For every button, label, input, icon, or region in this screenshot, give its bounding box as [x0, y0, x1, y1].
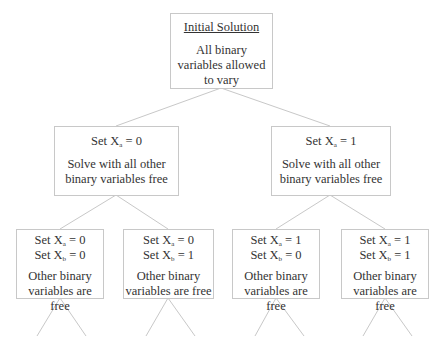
edge-l1right-rr [330, 195, 385, 229]
set-condition: Set Xb = 0 [233, 248, 319, 263]
node-text: binary variables free [272, 172, 390, 187]
root-text: variables allowed [171, 58, 272, 73]
node-text: binary variables free [55, 172, 178, 187]
node-set-xa-1: Set Xa = 1 Solve with all other binary v… [271, 126, 391, 196]
node-text: Other binary [233, 269, 319, 284]
set-condition: Set Xa = 1 [272, 134, 390, 149]
node-initial-solution: Initial Solution All binary variables al… [170, 13, 273, 89]
root-title: Initial Solution [171, 20, 272, 35]
set-condition: Set Xb = 0 [17, 248, 103, 263]
root-text: All binary [171, 43, 272, 58]
edge-l1left-lr [116, 195, 168, 229]
set-condition: Set Xa = 1 [342, 233, 428, 248]
node-text: Other binary [124, 269, 213, 284]
set-condition: Set Xb = 1 [124, 248, 213, 263]
set-condition: Set Xa = 0 [17, 233, 103, 248]
set-condition: Set Xa = 0 [55, 134, 178, 149]
edge-root-right [221, 88, 330, 126]
edge-l1left-ll [60, 195, 116, 229]
node-text: variables are free [342, 284, 428, 314]
node-xa1-xb0: Set Xa = 1 Set Xb = 0 Other binary varia… [232, 229, 320, 299]
node-text: Solve with all other [55, 157, 178, 172]
edge-l1right-rl [276, 195, 330, 229]
node-xa0-xb1: Set Xa = 0 Set Xb = 1 Other binary varia… [123, 229, 214, 299]
node-set-xa-0: Set Xa = 0 Solve with all other binary v… [54, 126, 179, 196]
node-xa1-xb1: Set Xa = 1 Set Xb = 1 Other binary varia… [341, 229, 429, 299]
set-condition: Set Xa = 1 [233, 233, 319, 248]
edge-root-left [116, 88, 221, 126]
root-text: to vary [171, 73, 272, 88]
node-xa0-xb0: Set Xa = 0 Set Xb = 0 Other binary varia… [16, 229, 104, 299]
set-condition: Set Xa = 0 [124, 233, 213, 248]
node-text: variables are free [233, 284, 319, 314]
node-text: variables are free [124, 284, 213, 299]
set-condition: Set Xb = 1 [342, 248, 428, 263]
node-text: Other binary [17, 269, 103, 284]
node-text: Other binary [342, 269, 428, 284]
node-text: Solve with all other [272, 157, 390, 172]
node-text: variables are free [17, 284, 103, 314]
